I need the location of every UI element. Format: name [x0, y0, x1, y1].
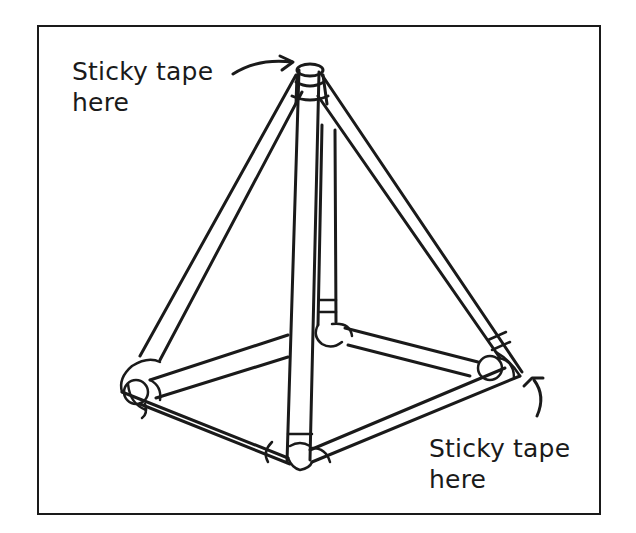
- curved-arrow-icon: [280, 56, 293, 70]
- apex-joint: [292, 64, 328, 104]
- sloped-straws: [140, 70, 522, 462]
- label-line: here: [429, 464, 570, 495]
- label-line: Sticky tape: [429, 433, 570, 464]
- label-sticky-tape-top: Sticky tape here: [72, 56, 213, 118]
- curved-arrow-icon: [534, 380, 541, 416]
- label-sticky-tape-bottom: Sticky tape here: [429, 433, 570, 495]
- label-line: Sticky tape: [72, 56, 213, 87]
- label-line: here: [72, 87, 213, 118]
- curved-arrow-icon: [524, 378, 543, 386]
